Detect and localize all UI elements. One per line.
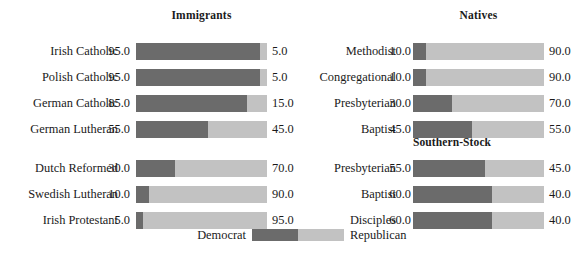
bar-segment-republican: [208, 121, 267, 138]
stacked-bar: [136, 69, 267, 86]
bar-row: Irish Catholic95.05.0: [0, 43, 293, 60]
bar-segment-republican: [149, 186, 267, 203]
bar-row: Baptist45.055.0: [293, 121, 586, 138]
republican-value-label: 90.0: [549, 43, 586, 60]
legend-label-republican: Republican: [350, 226, 430, 244]
stacked-bar: [136, 95, 267, 112]
bar-row: Polish Catholic95.05.0: [0, 69, 293, 86]
chart-panel-immigrants: Immigrants Irish Catholic95.05.0Polish C…: [0, 0, 293, 255]
panel-title-natives: Natives: [413, 9, 544, 21]
bar-segment-republican: [472, 121, 544, 138]
democrat-value-label: 55.0: [84, 121, 130, 138]
democrat-value-label: 95.0: [84, 69, 130, 86]
bar-row: Congregational10.090.0: [293, 69, 586, 86]
bar-row: German Catholic85.015.0: [0, 95, 293, 112]
bar-segment-democrat: [413, 95, 452, 112]
bar-segment-republican: [426, 69, 544, 86]
bar-segment-democrat: [413, 43, 426, 60]
democrat-value-label: 30.0: [365, 95, 411, 112]
republican-value-label: 70.0: [549, 95, 586, 112]
stacked-bar: [413, 69, 544, 86]
bar-segment-republican: [247, 95, 267, 112]
republican-value-label: 40.0: [549, 186, 586, 203]
stacked-bar: [136, 186, 267, 203]
stacked-bar: [136, 160, 267, 177]
stacked-bar: [413, 160, 544, 177]
bar-row: Presbyterian30.070.0: [293, 95, 586, 112]
republican-value-label: 45.0: [549, 160, 586, 177]
democrat-value-label: 85.0: [84, 95, 130, 112]
republican-value-label: 90.0: [549, 69, 586, 86]
stacked-bar: [413, 186, 544, 203]
bar-segment-democrat: [413, 121, 472, 138]
stacked-bar: [136, 43, 267, 60]
bar-segment-republican: [175, 160, 267, 177]
bar-segment-democrat: [136, 160, 175, 177]
bar-row: Baptist60.040.0: [293, 186, 586, 203]
bar-segment-democrat: [413, 69, 426, 86]
bar-segment-democrat: [136, 95, 247, 112]
bar-segment-republican: [452, 95, 544, 112]
legend: Democrat Republican: [0, 226, 586, 246]
bar-segment-republican: [260, 43, 267, 60]
bar-segment-democrat: [413, 186, 492, 203]
democrat-value-label: 55.0: [365, 160, 411, 177]
bar-row: Dutch Reformed30.070.0: [0, 160, 293, 177]
democrat-value-label: 45.0: [365, 121, 411, 138]
chart-panel-natives: Natives Southern-Stock Methodist10.090.0…: [293, 0, 586, 255]
bar-segment-democrat: [136, 186, 149, 203]
legend-swatch-democrat: [252, 229, 298, 241]
stacked-bar: [413, 121, 544, 138]
bar-segment-democrat: [413, 160, 485, 177]
democrat-value-label: 30.0: [84, 160, 130, 177]
legend-label-democrat: Democrat: [188, 226, 246, 244]
democrat-value-label: 10.0: [365, 43, 411, 60]
stacked-bar: [413, 95, 544, 112]
bar-row: Presbyterian55.045.0: [293, 160, 586, 177]
democrat-value-label: 95.0: [84, 43, 130, 60]
republican-value-label: 55.0: [549, 121, 586, 138]
bar-segment-republican: [426, 43, 544, 60]
bar-segment-democrat: [136, 43, 260, 60]
stacked-bar: [413, 43, 544, 60]
bar-segment-democrat: [136, 69, 260, 86]
bar-row: German Lutheran55.045.0: [0, 121, 293, 138]
bar-segment-republican: [485, 160, 544, 177]
legend-swatch-republican: [298, 229, 344, 241]
bar-segment-republican: [260, 69, 267, 86]
stacked-bar: [136, 121, 267, 138]
bar-segment-democrat: [136, 121, 208, 138]
panel-title-immigrants: Immigrants: [136, 9, 267, 21]
bar-row: Methodist10.090.0: [293, 43, 586, 60]
democrat-value-label: 10.0: [365, 69, 411, 86]
democrat-value-label: 10.0: [84, 186, 130, 203]
democrat-value-label: 60.0: [365, 186, 411, 203]
bar-segment-republican: [492, 186, 544, 203]
bar-row: Swedish Lutheran10.090.0: [0, 186, 293, 203]
